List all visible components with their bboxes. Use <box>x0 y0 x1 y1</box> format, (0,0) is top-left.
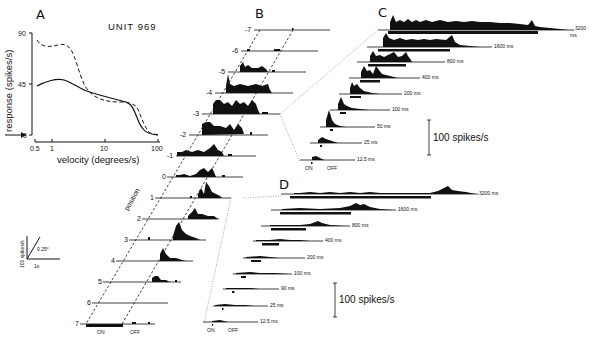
c-row-label: 400 ms <box>422 74 439 80</box>
position-axis-label: position <box>123 187 142 212</box>
d-scale-label: 100 spikes/s <box>339 294 395 305</box>
ytick-90: 90 <box>18 30 26 37</box>
d-off-label: OFF <box>228 327 238 333</box>
xtick-0.5: 0.5 <box>30 145 40 152</box>
b-row-label: -7 <box>245 26 251 33</box>
c-row-label: 12.5 ms <box>357 156 375 162</box>
b-row-label: 2 <box>137 215 141 222</box>
d-row-label: 200 ms <box>307 254 324 260</box>
scale-bar: 100 spikes/s 0.25° 1s <box>19 236 60 269</box>
scale-diagonal-label: 0.25° <box>37 246 49 252</box>
b-off-label: OFF <box>130 329 140 335</box>
ytick-45: 45 <box>18 81 26 88</box>
panel-c: C <box>300 5 586 171</box>
b-row-label: -3 <box>193 110 199 117</box>
solid-curve <box>37 79 158 135</box>
d-row-label: 800 ms <box>352 222 369 228</box>
b-row-label: 6 <box>87 299 91 306</box>
b-on-label: ON <box>97 329 105 335</box>
d-row-label: 1600 ms <box>398 206 418 212</box>
b-row-label: -4 <box>206 89 212 96</box>
x-axis-label: velocity (degrees/s) <box>57 154 139 165</box>
panel-b-letter: B <box>255 6 264 21</box>
b-row-label: 1 <box>150 194 154 201</box>
c-row-label: 1600 ms <box>494 43 514 49</box>
d-stimulus-bars <box>212 196 431 326</box>
c-row-label: 800 ms <box>447 58 464 64</box>
c-scale-label: 100 spikes/s <box>433 132 489 143</box>
c-top-unit: ms <box>570 32 577 38</box>
b-row-label: 0 <box>162 173 166 180</box>
d-row-label: 90 ms <box>281 285 295 291</box>
panel-d-letter: D <box>279 177 289 192</box>
b-row-label: -5 <box>219 68 225 75</box>
d-row-label: 400 ms <box>325 237 342 243</box>
d-row-label: 100 ms <box>294 270 311 276</box>
dashed-curve <box>37 40 158 135</box>
c-row-label: 3200 <box>575 25 586 31</box>
c-row-label: 200 ms <box>404 90 421 96</box>
panel-d: D <box>203 177 499 333</box>
d-row-label: 25 ms <box>270 302 284 308</box>
d-on-label: ON <box>207 327 215 333</box>
b-stimulus-bar <box>86 324 123 327</box>
figure-canvas: A UNIT 969 90 45 0 0.5 1 10 100 velocity… <box>0 0 608 349</box>
c-off-label: OFF <box>327 165 337 171</box>
b-row-label: -1 <box>167 152 173 159</box>
c-row-label: 50 ms <box>377 123 391 129</box>
xtick-1: 1 <box>50 145 54 152</box>
d-row-label: 3200 ms <box>479 190 499 196</box>
xtick-100: 100 <box>151 145 163 152</box>
b-row-label: -6 <box>232 47 238 54</box>
connector-lines <box>204 30 378 323</box>
panel-a-letter: A <box>36 7 45 22</box>
b-row-label: 5 <box>98 278 102 285</box>
c-stimulus-bars <box>311 31 538 164</box>
scale-horizontal-label: 1s <box>34 263 40 269</box>
d-row-label: 12.5 ms <box>260 318 278 324</box>
panel-a: A UNIT 969 90 45 0 0.5 1 10 100 velocity… <box>3 7 163 165</box>
panel-c-letter: C <box>378 5 387 20</box>
scale-vertical-label: 100 spikes/s <box>19 240 25 268</box>
xtick-10: 10 <box>100 145 108 152</box>
c-on-label: ON <box>305 165 313 171</box>
b-row-label: 3 <box>124 236 128 243</box>
c-row-label: 25 ms <box>364 139 378 145</box>
b-row-label: 4 <box>111 257 115 264</box>
y-axis-label: response (spikes/s) <box>3 50 14 132</box>
c-row-label: 100 ms <box>392 106 409 112</box>
b-row-label: -2 <box>180 131 186 138</box>
unit-title: UNIT 969 <box>108 21 156 32</box>
b-row-label: 7 <box>75 320 79 327</box>
